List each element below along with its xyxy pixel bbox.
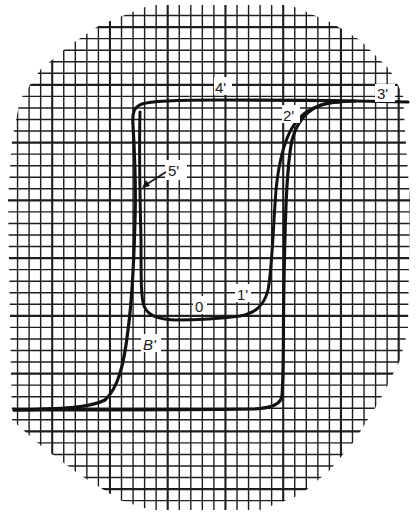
arrowhead-icon bbox=[142, 180, 150, 188]
outer-loop-descending-curve bbox=[14, 100, 408, 410]
label-3-prime: 3' bbox=[377, 85, 388, 102]
hysteresis-chart: 4' 2' 3' 5' 0 1' B' bbox=[0, 0, 417, 514]
curves bbox=[14, 100, 408, 410]
outer-loop-ascending-curve bbox=[14, 101, 355, 410]
graph-paper-grid bbox=[0, 0, 417, 514]
label-2-prime: 2' bbox=[283, 107, 294, 124]
label-5-prime: 5' bbox=[168, 162, 179, 179]
label-zero: 0 bbox=[195, 298, 203, 315]
label-b-prime: B' bbox=[143, 336, 157, 353]
label-1-prime: 1' bbox=[237, 286, 248, 303]
label-4-prime: 4' bbox=[215, 79, 226, 96]
